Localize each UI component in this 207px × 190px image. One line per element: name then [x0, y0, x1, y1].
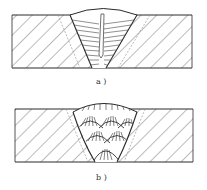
panel-a-label: a )	[96, 77, 106, 86]
panel-b	[15, 101, 193, 162]
weld-diagram	[0, 0, 207, 190]
panel-b-label: b )	[96, 173, 107, 182]
panel-a	[12, 9, 192, 69]
